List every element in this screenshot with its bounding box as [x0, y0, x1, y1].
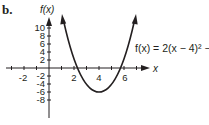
- function-graph: 10 8 6 4 2 -2 -4 -6 -8 f(x) -2 2 4 6 x: [0, 0, 209, 125]
- y-tick-neg8: -8: [37, 94, 45, 105]
- x-tick-2: 2: [71, 72, 76, 83]
- function-label: f(x) = 2(x − 4)² − 6: [135, 42, 209, 54]
- x-tick-6: 6: [122, 72, 127, 83]
- x-axis: -2 2 4 6 x: [6, 63, 159, 83]
- x-tick-neg2: -2: [19, 72, 27, 83]
- x-axis-arrow-icon: [141, 65, 150, 71]
- x-axis-title: x: [152, 63, 159, 74]
- y-axis: 10 8 6 4 2 -2 -4 -6 -8 f(x): [34, 4, 54, 118]
- curve-arrow-left-icon: [60, 14, 66, 25]
- y-axis-title: f(x): [40, 4, 54, 15]
- x-tick-4: 4: [96, 72, 101, 83]
- curve-arrow-right-icon: [132, 14, 138, 25]
- y-axis-arrow-icon: [46, 17, 52, 26]
- y-tick-2: 2: [40, 54, 45, 65]
